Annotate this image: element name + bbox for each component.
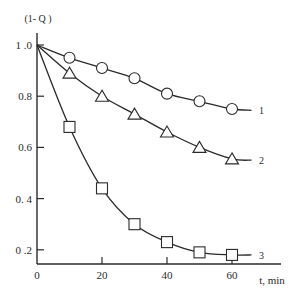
- x-axis-title: t, min: [259, 274, 285, 286]
- axes: 1 .00.80.60. 40 .20204060: [16, 33, 282, 281]
- y-tick-label: 1 .0: [16, 39, 33, 51]
- circle-marker: [97, 63, 108, 74]
- series-label-2: 2: [259, 155, 264, 166]
- circle-marker: [162, 88, 173, 99]
- y-tick-label: 0. 4: [16, 193, 33, 205]
- x-tick-label: 20: [97, 269, 109, 281]
- y-tick-label: 0.8: [18, 90, 32, 102]
- triangle-marker: [161, 126, 174, 137]
- series-label-1: 1: [259, 105, 264, 116]
- x-tick-label: 40: [162, 269, 174, 281]
- circle-marker: [227, 104, 238, 115]
- triangle-marker: [226, 153, 239, 164]
- y-tick-label: 0.6: [18, 141, 32, 153]
- y-axis-title: (1- Q ): [24, 13, 51, 25]
- square-marker: [194, 247, 205, 258]
- square-marker: [227, 249, 238, 260]
- circle-marker: [64, 52, 75, 63]
- circle-marker: [129, 73, 140, 84]
- triangle-marker: [193, 141, 206, 152]
- square-marker: [162, 237, 173, 248]
- labels: (1- Q )t, min123: [24, 13, 285, 286]
- square-marker: [129, 219, 140, 230]
- x-tick-label: 0: [34, 269, 40, 281]
- triangle-marker: [128, 108, 141, 119]
- square-marker: [97, 183, 108, 194]
- series-label-3: 3: [259, 250, 264, 261]
- circle-marker: [194, 96, 205, 107]
- chart: 1 .00.80.60. 40 .20204060 (1- Q )t, min1…: [0, 0, 298, 295]
- y-tick-label: 0 .2: [16, 244, 33, 256]
- x-tick-label: 60: [227, 269, 239, 281]
- triangle-marker: [96, 90, 109, 101]
- markers: [63, 52, 239, 260]
- square-marker: [64, 121, 75, 132]
